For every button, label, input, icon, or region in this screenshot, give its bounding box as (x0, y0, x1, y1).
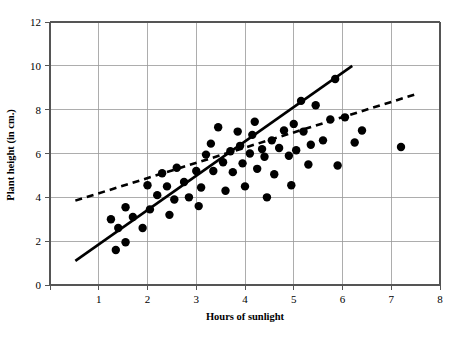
data-point (209, 167, 217, 175)
data-point (263, 193, 271, 201)
data-point (112, 246, 120, 254)
x-axis-title: Hours of sunlight (206, 311, 285, 322)
y-axis-title: Plant height (in cm.) (5, 109, 17, 201)
x-tick-label: 7 (389, 293, 395, 305)
grid-lines (50, 22, 440, 285)
data-point (207, 139, 215, 147)
data-point (246, 149, 254, 157)
data-point (214, 123, 222, 131)
data-point (275, 144, 283, 152)
chart-canvas: 12345678 024681012 Hours of sunlight Pla… (0, 0, 458, 341)
data-point (285, 151, 293, 159)
data-point (258, 145, 266, 153)
scatter-plot-figure: 12345678 024681012 Hours of sunlight Pla… (0, 0, 458, 341)
y-tick-label: 4 (36, 191, 42, 203)
data-point (397, 143, 405, 151)
y-axis-tick-labels: 024681012 (30, 16, 42, 291)
y-tick-label: 12 (30, 16, 41, 28)
y-tick-label: 8 (36, 104, 42, 116)
data-point (287, 181, 295, 189)
data-point (292, 146, 300, 154)
data-point (319, 136, 327, 144)
data-point (238, 159, 246, 167)
data-point (170, 195, 178, 203)
data-point (202, 150, 210, 158)
data-point (311, 101, 319, 109)
data-point (333, 161, 341, 169)
y-tick-label: 10 (30, 60, 42, 72)
data-point (221, 187, 229, 195)
data-point (165, 211, 173, 219)
x-tick-label: 1 (96, 293, 102, 305)
x-axis-tick-labels: 12345678 (96, 293, 443, 305)
data-point (358, 126, 366, 134)
data-point (143, 181, 151, 189)
data-point (233, 127, 241, 135)
data-point (197, 183, 205, 191)
x-tick-label: 8 (437, 293, 443, 305)
data-point (251, 118, 259, 126)
x-tick-label: 4 (242, 293, 248, 305)
data-point (350, 138, 358, 146)
x-tick-label: 5 (291, 293, 297, 305)
y-tick-label: 2 (36, 235, 42, 247)
data-point (260, 153, 268, 161)
data-point (307, 141, 315, 149)
x-tick-label: 6 (340, 293, 346, 305)
data-point (229, 168, 237, 176)
data-point (121, 238, 129, 246)
x-tick-label: 3 (194, 293, 200, 305)
data-point (253, 165, 261, 173)
data-point (185, 193, 193, 201)
x-tick-label: 2 (145, 293, 151, 305)
data-point (290, 120, 298, 128)
data-point (304, 160, 312, 168)
tick-marks (45, 22, 440, 290)
y-tick-label: 0 (36, 279, 42, 291)
data-point (138, 224, 146, 232)
y-tick-label: 6 (36, 148, 42, 160)
data-point (153, 191, 161, 199)
data-point (121, 203, 129, 211)
data-point (107, 215, 115, 223)
data-point (194, 202, 202, 210)
data-point (241, 182, 249, 190)
data-point (270, 170, 278, 178)
data-point (163, 182, 171, 190)
data-points (107, 75, 405, 254)
